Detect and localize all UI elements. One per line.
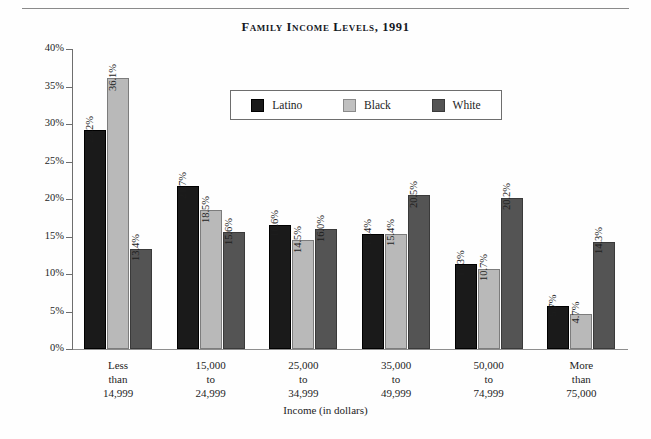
bar-value-label: 4.7% <box>571 302 582 324</box>
chart-title: Family Income Levels, 1991 <box>0 20 651 35</box>
y-axis-tick <box>66 199 73 200</box>
bar-black[interactable]: 36.1% <box>107 78 129 349</box>
y-axis-tick <box>66 87 73 88</box>
y-axis-tick-label: 40% <box>30 42 64 53</box>
y-axis-line <box>72 50 73 350</box>
legend-item-white[interactable]: White <box>432 99 481 112</box>
bar-value-label: 18.5% <box>200 196 211 223</box>
y-axis-tick-label: 20% <box>30 192 64 203</box>
y-axis-tick <box>66 49 73 50</box>
y-axis-tick-label: 15% <box>30 230 64 241</box>
bar-white[interactable]: 14.3% <box>593 242 615 349</box>
legend-item-black[interactable]: Black <box>343 99 391 112</box>
bar-value-label: 5.7% <box>548 294 559 316</box>
y-axis-tick-label: 0% <box>30 342 64 353</box>
y-axis-tick <box>66 162 73 163</box>
bar-white[interactable]: 16.0% <box>315 229 337 349</box>
chart-figure: Family Income Levels, 1991 29.2%36.1%13.… <box>0 0 651 439</box>
bar-white[interactable]: 13.4% <box>130 249 152 350</box>
bar-black[interactable]: 10.7% <box>478 269 500 349</box>
bar-latino[interactable]: 21.7% <box>177 186 199 349</box>
bar-white[interactable]: 20.5% <box>408 195 430 349</box>
y-axis-tick <box>66 312 73 313</box>
bar-value-label: 29.2% <box>85 115 96 142</box>
y-axis-tick-label: 10% <box>30 267 64 278</box>
bar-value-label: 16.6% <box>270 210 281 237</box>
bar-black[interactable]: 4.7% <box>570 314 592 349</box>
legend-swatch-white <box>432 99 445 112</box>
bar-black[interactable]: 15.4% <box>385 234 407 350</box>
y-axis-tick <box>66 124 73 125</box>
category-label-line: 75,000 <box>526 386 636 400</box>
bar-group: 29.2%36.1%13.4% <box>84 50 152 349</box>
y-axis-tick <box>66 237 73 238</box>
bar-value-label: 21.7% <box>177 172 188 199</box>
legend-item-latino[interactable]: Latino <box>251 99 302 112</box>
page-top-rule <box>22 8 629 9</box>
y-axis-tick-label: 30% <box>30 117 64 128</box>
x-axis-category-label: Morethan75,000 <box>526 358 636 400</box>
bar-value-label: 16.0% <box>316 214 327 241</box>
bar-value-label: 11.3% <box>455 250 466 277</box>
legend-swatch-latino <box>251 99 264 112</box>
bar-value-label: 20.5% <box>409 181 420 208</box>
bar-value-label: 36.1% <box>108 64 119 91</box>
x-axis-title: Income (in dollars) <box>0 404 651 416</box>
category-label-line: More <box>526 358 636 372</box>
legend-label: White <box>453 99 481 111</box>
bar-value-label: 20.2% <box>501 183 512 210</box>
bar-white[interactable]: 20.2% <box>501 198 523 350</box>
bar-latino[interactable]: 5.7% <box>547 306 569 349</box>
bar-value-label: 10.7% <box>478 254 489 281</box>
bar-value-label: 13.4% <box>131 234 142 261</box>
legend-label: Black <box>364 99 391 111</box>
bar-latino[interactable]: 16.6% <box>269 225 291 350</box>
bar-value-label: 15.4% <box>386 219 397 246</box>
bar-black[interactable]: 18.5% <box>200 210 222 349</box>
category-label-line: than <box>526 372 636 386</box>
y-axis-tick-label: 35% <box>30 80 64 91</box>
x-axis-line <box>72 349 628 350</box>
y-axis-tick-label: 25% <box>30 155 64 166</box>
bar-value-label: 14.5% <box>293 226 304 253</box>
y-axis-tick <box>66 349 73 350</box>
bar-value-label: 14.3% <box>594 227 605 254</box>
legend-label: Latino <box>272 99 302 111</box>
bar-value-label: 15.6% <box>223 217 234 244</box>
bar-latino[interactable]: 29.2% <box>84 130 106 349</box>
bar-latino[interactable]: 11.3% <box>455 264 477 349</box>
bar-value-label: 15.4% <box>363 219 374 246</box>
bar-white[interactable]: 15.6% <box>223 232 245 349</box>
y-axis-tick-label: 5% <box>30 305 64 316</box>
bar-latino[interactable]: 15.4% <box>362 234 384 350</box>
bar-group: 5.7%4.7%14.3% <box>547 50 615 349</box>
legend-swatch-black <box>343 99 356 112</box>
y-axis-tick <box>66 274 73 275</box>
bar-black[interactable]: 14.5% <box>292 240 314 349</box>
chart-legend: LatinoBlackWhite <box>230 90 502 120</box>
